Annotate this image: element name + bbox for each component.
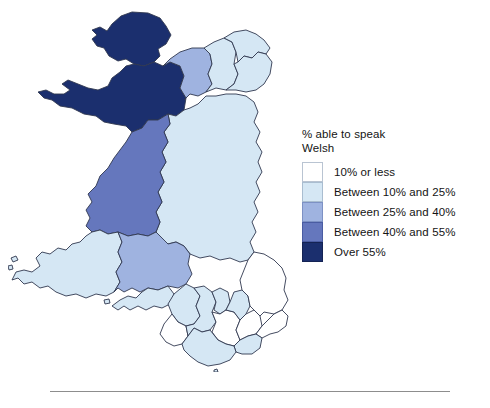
map-container [8,4,308,372]
legend-label-40-to-55: Between 40% and 55% [323,226,455,239]
region-islet-skokholm [8,265,13,270]
legend-title: % able to speak Welsh [302,128,484,155]
wales-choropleth-svg [8,4,308,372]
legend-swatch-10-or-less [302,162,323,182]
legend-swatch-40-to-55 [302,222,323,242]
legend-item-40-to-55[interactable]: Between 40% and 55% [302,222,484,242]
region-islet-skomer [11,256,18,262]
legend-swatch-over-55 [302,242,323,262]
region-islet-caldey [104,299,110,304]
legend-swatch-25-to-40 [302,202,323,222]
legend-label-10-to-25: Between 10% and 25% [323,186,455,199]
region-powys[interactable] [156,94,262,262]
legend-swatch-10-to-25 [302,182,323,202]
legend-item-10-or-less[interactable]: 10% or less [302,162,484,182]
legend-item-25-to-40[interactable]: Between 25% and 40% [302,202,484,222]
map-legend: % able to speak Welsh 10% or less Betwee… [302,128,484,262]
footer-divider [50,391,450,392]
region-islet-flatholm [214,369,218,372]
welsh-language-map-figure: % able to speak Welsh 10% or less Betwee… [0,0,490,408]
region-pembrokeshire[interactable] [12,230,122,298]
legend-label-10-or-less: 10% or less [323,166,395,179]
region-ceredigion[interactable] [86,114,170,236]
legend-label-25-to-40: Between 25% and 40% [323,206,455,219]
legend-item-10-to-25[interactable]: Between 10% and 25% [302,182,484,202]
legend-label-over-55: Over 55% [323,246,386,259]
region-isle-of-anglesey[interactable] [92,12,171,66]
legend-item-over-55[interactable]: Over 55% [302,242,484,262]
